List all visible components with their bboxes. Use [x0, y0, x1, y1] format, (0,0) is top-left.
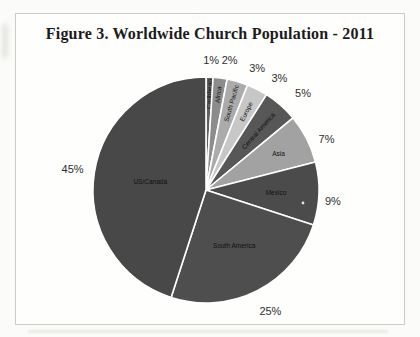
slice-label-asia: Asia — [272, 150, 285, 157]
slice-label-mexico: Mexico — [266, 189, 287, 196]
pct-label-central-america: 5% — [295, 87, 311, 99]
slice-label-south-america: South America — [213, 242, 256, 249]
pct-label-south-america: 25% — [259, 305, 281, 317]
slice-label-us-canada: US/Canada — [133, 178, 167, 185]
pct-label-africa: 2% — [222, 54, 238, 66]
pct-label-south-pacific: 3% — [249, 62, 265, 74]
pct-label-asia: 7% — [319, 133, 335, 145]
scan-speck — [302, 202, 305, 205]
pct-label-us-canada: 45% — [62, 163, 84, 175]
scan-streak — [28, 330, 388, 333]
pct-label-caribbean: 1% — [203, 54, 219, 66]
pct-label-mexico: 9% — [325, 195, 341, 207]
pct-label-europe: 3% — [271, 72, 287, 84]
scan-smudge — [2, 24, 8, 58]
pie-chart: Caribbean1%Africa2%South Pacific3%Europe… — [0, 0, 420, 337]
